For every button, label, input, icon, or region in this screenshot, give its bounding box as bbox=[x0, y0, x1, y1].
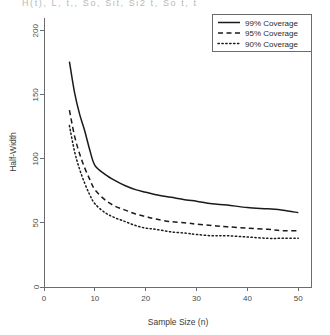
chart-canvas: H(t), L, t,, So, Sit, Si2 t, So t, t 050… bbox=[0, 0, 330, 335]
x-tick-label: 50 bbox=[294, 294, 303, 303]
x-axis-title: Sample Size (n) bbox=[148, 317, 209, 327]
y-tick-label: 100 bbox=[32, 152, 41, 166]
chart-figure: H(t), L, t,, So, Sit, Si2 t, So t, t 050… bbox=[0, 0, 330, 335]
y-axis-title: Half-Width bbox=[8, 132, 18, 172]
x-tick-label: 0 bbox=[42, 294, 47, 303]
y-tick-label: 50 bbox=[32, 218, 41, 227]
x-tick-label: 30 bbox=[192, 294, 201, 303]
x-tick-label: 20 bbox=[141, 294, 150, 303]
legend-label: 95% Coverage bbox=[245, 29, 298, 38]
plot-frame bbox=[44, 18, 311, 287]
y-tick-label: 150 bbox=[32, 88, 41, 102]
chart-legend: 99% Coverage95% Coverage90% Coverage bbox=[212, 14, 311, 51]
clipped-header-text: H(t), L, t,, So, Sit, Si2 t, So t, t bbox=[22, 0, 198, 8]
series-line-dotted bbox=[69, 126, 298, 239]
series-lines bbox=[69, 62, 298, 239]
y-axis-ticks: 050100150200 bbox=[32, 24, 45, 290]
y-tick-label: 200 bbox=[32, 24, 41, 38]
x-tick-label: 40 bbox=[243, 294, 252, 303]
series-line-solid bbox=[69, 62, 298, 213]
x-axis-ticks: 01020304050 bbox=[42, 287, 304, 303]
legend-label: 99% Coverage bbox=[245, 19, 298, 28]
legend-label: 90% Coverage bbox=[245, 40, 298, 49]
x-tick-label: 10 bbox=[90, 294, 99, 303]
y-tick-label: 0 bbox=[32, 284, 41, 289]
